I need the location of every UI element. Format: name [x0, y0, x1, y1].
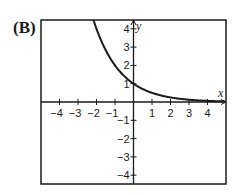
y-tick-label: −1: [117, 114, 130, 126]
axes: [41, 20, 226, 184]
x-tick-label: 3: [186, 107, 192, 119]
x-tick-label: 2: [167, 107, 173, 119]
x-tick-label: −4: [50, 107, 63, 119]
y-tick-label: −4: [117, 169, 130, 181]
x-tick-label: 1: [149, 107, 155, 119]
y-axis-label: y: [135, 19, 142, 33]
exponential-curve: [91, 12, 225, 102]
x-axis-label: x: [217, 86, 224, 100]
y-tick-label: 3: [123, 41, 129, 53]
y-tick-label: −3: [117, 151, 130, 163]
y-tick-label: 2: [123, 59, 129, 71]
graph-plot: −4−3−2−112344321−1−2−3−4 x y: [0, 0, 235, 195]
x-tick-label: −3: [69, 107, 82, 119]
y-tick-label: −2: [117, 133, 130, 145]
x-tick-label: −2: [87, 107, 100, 119]
x-tick-label: 4: [204, 107, 210, 119]
y-tick-label: 4: [123, 23, 129, 35]
